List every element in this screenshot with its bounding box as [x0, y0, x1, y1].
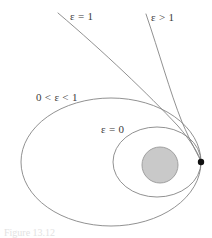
figure-caption: Figure 13.12: [4, 227, 55, 238]
curve-label-parabola: ε = 1: [70, 11, 93, 22]
conic-sections-canvas: [0, 0, 212, 238]
orbit-hyperbola-curve: [146, 14, 201, 162]
conic-sections-figure: ε = 1 ε > 1 0 < ε < 1 ε = 0 Figure 13.12: [0, 0, 212, 238]
central-body-disc: [142, 147, 178, 183]
focus-point-marker: [198, 159, 204, 165]
orbit-parabola-curve: [58, 13, 201, 162]
curve-label-circle: ε = 0: [101, 124, 124, 135]
curve-label-ellipse: 0 < ε < 1: [36, 92, 78, 103]
curve-label-hyperbola: ε > 1: [151, 12, 174, 23]
